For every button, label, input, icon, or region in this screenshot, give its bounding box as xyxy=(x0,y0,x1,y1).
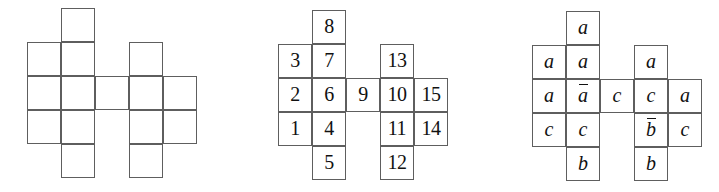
lettered-net-cell: b xyxy=(566,147,600,181)
lettered-net-cell: c xyxy=(668,113,702,147)
lettered-net-cell-label: b xyxy=(646,153,656,173)
blank-net-cell xyxy=(27,42,61,76)
lettered-net-cell: c xyxy=(532,113,566,147)
numbered-net-cell-label: 13 xyxy=(388,50,407,70)
numbered-net-cell: 10 xyxy=(380,78,414,112)
numbered-net-cell: 6 xyxy=(312,78,346,112)
blank-net-cell xyxy=(163,110,197,144)
blank-net-grid xyxy=(27,8,197,178)
lettered-net: aaaaaaccaccbcbb xyxy=(532,11,702,181)
blank-net-cell xyxy=(61,110,95,144)
blank-net-cell xyxy=(27,76,61,110)
numbered-net-cell-label: 14 xyxy=(422,118,441,138)
blank-net-cell xyxy=(129,76,163,110)
numbered-net-cell: 2 xyxy=(278,78,312,112)
lettered-net-cell-label: c xyxy=(579,119,588,139)
numbered-net-cell: 14 xyxy=(414,112,448,146)
numbered-net-cell: 7 xyxy=(312,44,346,78)
numbered-net-cell: 12 xyxy=(380,146,414,180)
lettered-net-cell: a xyxy=(566,11,600,45)
numbered-net-cell-label: 5 xyxy=(324,152,334,172)
lettered-net-cell-label: c xyxy=(647,85,656,105)
blank-net xyxy=(27,8,197,178)
lettered-net-cell: a xyxy=(634,45,668,79)
lettered-net-cell: a xyxy=(668,79,702,113)
lettered-net-cell-label: c xyxy=(545,119,554,139)
lettered-net-cell: b xyxy=(634,113,668,147)
lettered-net-cell-label: c xyxy=(613,85,622,105)
numbered-net-cell-label: 8 xyxy=(324,16,334,36)
blank-net-cell xyxy=(61,76,95,110)
lettered-net-cell-label: b xyxy=(646,119,656,139)
lettered-net-cell: b xyxy=(634,147,668,181)
blank-net-cell xyxy=(129,110,163,144)
lettered-net-cell-label: a xyxy=(578,17,588,37)
numbered-net-cell-label: 10 xyxy=(388,84,407,104)
lettered-net-cell: a xyxy=(566,45,600,79)
lettered-net-cell: c xyxy=(566,113,600,147)
numbered-net-cell: 4 xyxy=(312,112,346,146)
numbered-net-cell-label: 11 xyxy=(388,118,406,138)
numbered-net-cell-label: 4 xyxy=(324,118,334,138)
blank-net-cell xyxy=(27,110,61,144)
numbered-net: 837132691015141114512 xyxy=(278,10,448,180)
numbered-net-cell: 11 xyxy=(380,112,414,146)
blank-net-cell xyxy=(163,76,197,110)
lettered-net-cell: c xyxy=(600,79,634,113)
numbered-net-cell-label: 3 xyxy=(290,50,300,70)
lettered-net-cell-label: b xyxy=(578,153,588,173)
blank-net-cell xyxy=(95,76,129,110)
lettered-net-cell: a xyxy=(532,45,566,79)
blank-net-cell xyxy=(61,8,95,42)
numbered-net-cell-label: 1 xyxy=(290,118,300,138)
blank-net-cell xyxy=(61,42,95,76)
lettered-net-cell-label: a xyxy=(680,85,690,105)
lettered-net-cell: a xyxy=(532,79,566,113)
blank-net-cell xyxy=(61,144,95,178)
blank-net-cell xyxy=(129,42,163,76)
numbered-net-cell: 13 xyxy=(380,44,414,78)
numbered-net-cell: 5 xyxy=(312,146,346,180)
blank-net-cell xyxy=(129,144,163,178)
numbered-net-cell: 8 xyxy=(312,10,346,44)
numbered-net-cell: 9 xyxy=(346,78,380,112)
numbered-net-cell-label: 2 xyxy=(290,84,300,104)
numbered-net-cell-label: 7 xyxy=(324,50,334,70)
numbered-net-cell: 15 xyxy=(414,78,448,112)
numbered-net-cell-label: 15 xyxy=(422,84,441,104)
numbered-net-cell: 1 xyxy=(278,112,312,146)
lettered-net-cell-label: a xyxy=(544,51,554,71)
lettered-net-cell-label: a xyxy=(646,51,656,71)
numbered-net-cell-label: 12 xyxy=(388,152,407,172)
lettered-net-cell-label: c xyxy=(681,119,690,139)
numbered-net-cell-label: 6 xyxy=(324,84,334,104)
numbered-net-cell-label: 9 xyxy=(358,84,368,104)
lettered-net-cell: c xyxy=(634,79,668,113)
lettered-net-grid: aaaaaaccaccbcbb xyxy=(532,11,702,181)
numbered-net-cell: 3 xyxy=(278,44,312,78)
lettered-net-cell-label: a xyxy=(578,51,588,71)
numbered-net-grid: 837132691015141114512 xyxy=(278,10,448,180)
lettered-net-cell-label: a xyxy=(578,85,588,105)
lettered-net-cell-label: a xyxy=(544,85,554,105)
lettered-net-cell: a xyxy=(566,79,600,113)
